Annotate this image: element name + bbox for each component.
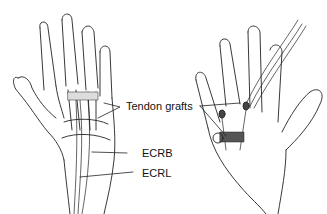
label-ecrl: ECRL <box>142 168 171 179</box>
figure: Tendon grafts ECRB ECRL <box>0 0 327 214</box>
left-hand-drawing <box>14 14 115 214</box>
right-hand-drawing <box>196 20 322 214</box>
label-tendon-grafts: Tendon grafts <box>126 101 193 112</box>
label-ecrb: ECRB <box>142 148 173 159</box>
